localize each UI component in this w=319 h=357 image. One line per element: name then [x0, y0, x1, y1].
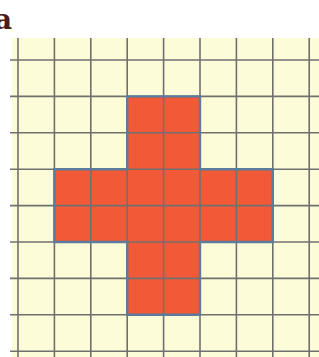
shaded-cell	[200, 169, 236, 205]
cross-shape-grid	[0, 0, 319, 357]
shaded-cell	[164, 133, 200, 169]
shaded-cell	[236, 169, 272, 205]
shaded-cell	[164, 242, 200, 278]
shaded-cell	[127, 169, 163, 205]
shaded-cell	[200, 206, 236, 242]
shaded-cell	[54, 206, 90, 242]
shaded-cell	[127, 133, 163, 169]
shaded-cell	[164, 169, 200, 205]
shaded-cell	[236, 206, 272, 242]
shaded-cell	[164, 96, 200, 132]
shaded-cell	[127, 96, 163, 132]
shaded-cell	[127, 206, 163, 242]
shaded-cell	[127, 278, 163, 314]
shaded-cell	[91, 169, 127, 205]
shaded-cell	[54, 169, 90, 205]
shaded-cell	[164, 206, 200, 242]
shaded-cell	[91, 206, 127, 242]
shaded-cell	[127, 242, 163, 278]
shaded-cell	[164, 278, 200, 314]
